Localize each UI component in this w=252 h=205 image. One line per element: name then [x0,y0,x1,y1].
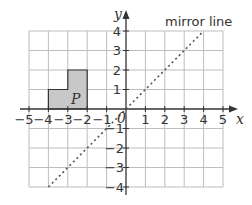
x-tick-label: −4 [33,112,52,127]
y-tick-label: 2 [113,63,121,78]
y-tick-label: −4 [105,180,124,195]
y-axis-arrow-icon [123,10,130,19]
x-tick-label: −3 [53,112,72,127]
y-tick-label: −1 [105,121,124,136]
x-tick-label: 4 [199,112,207,127]
y-tick-label: 1 [113,82,121,97]
y-tick-label: −2 [105,141,124,156]
y-tick-label: 4 [113,24,121,39]
x-tick-label: 5 [219,112,227,127]
x-axis-label: x [236,111,244,127]
mirror-line-label: mirror line [165,14,232,29]
x-tick-label: 3 [180,112,188,127]
y-axis-label: y [113,6,123,22]
y-tick-label: 3 [113,43,121,58]
y-tick-label: −3 [105,160,124,175]
x-tick-label: −5 [14,112,33,127]
shape-p [48,70,87,109]
shape-p-label: P [70,91,81,107]
coordinate-grid-diagram: P mirror line x y 0 −5 −4 −3 −2 [0,0,252,205]
x-tick-label: 1 [141,112,149,127]
x-tick-label: −2 [72,112,91,127]
x-tick-label: 2 [161,112,169,127]
